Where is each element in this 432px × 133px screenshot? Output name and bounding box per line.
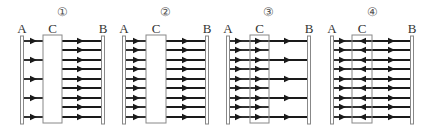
- arrow-right-icon: [77, 38, 84, 44]
- plate-a: [123, 36, 126, 124]
- label-c: C: [255, 22, 264, 35]
- label-a: A: [17, 22, 26, 35]
- plate-a: [331, 36, 334, 124]
- arrow-right-icon: [235, 95, 242, 101]
- panel-number: ②: [160, 6, 171, 18]
- arrow-right-icon: [235, 104, 242, 110]
- arrow-right-icon: [235, 57, 242, 63]
- arrow-right-icon: [30, 38, 37, 44]
- arrow-right-icon: [235, 66, 242, 72]
- arrow-right-icon: [133, 114, 140, 120]
- label-a: A: [119, 22, 128, 35]
- arrow-right-icon: [133, 57, 140, 63]
- arrow-right-icon: [235, 47, 242, 53]
- arrow-right-icon: [77, 76, 84, 82]
- arrow-right-icon: [388, 66, 395, 72]
- arrow-right-icon: [339, 38, 346, 44]
- arrow-right-icon: [133, 104, 140, 110]
- arrow-right-icon: [235, 38, 242, 44]
- arrow-right-icon: [339, 104, 346, 110]
- arrow-right-icon: [182, 95, 189, 101]
- arrow-right-icon: [284, 114, 291, 120]
- slab-c: [146, 35, 166, 123]
- arrow-right-icon: [182, 76, 189, 82]
- arrow-right-icon: [235, 85, 242, 91]
- arrow-right-icon: [77, 66, 84, 72]
- arrow-right-icon: [30, 95, 37, 101]
- arrow-right-icon: [77, 85, 84, 91]
- arrow-left-icon: [359, 104, 366, 110]
- label-b: B: [99, 22, 108, 35]
- arrow-right-icon: [182, 47, 189, 53]
- arrow-right-icon: [133, 95, 140, 101]
- plate-b: [411, 36, 414, 124]
- arrow-right-icon: [255, 66, 262, 72]
- arrow-right-icon: [182, 114, 189, 120]
- arrow-right-icon: [77, 57, 84, 63]
- plate-b: [102, 36, 105, 124]
- arrow-right-icon: [255, 47, 262, 53]
- arrow-right-icon: [388, 47, 395, 53]
- arrow-right-icon: [388, 114, 395, 120]
- arrow-right-icon: [77, 47, 84, 53]
- field-lines-figure: [0, 0, 432, 133]
- arrow-right-icon: [30, 114, 37, 120]
- arrow-right-icon: [235, 76, 242, 82]
- plate-b: [308, 36, 311, 124]
- arrow-right-icon: [133, 47, 140, 53]
- arrow-left-icon: [359, 95, 366, 101]
- arrow-right-icon: [339, 76, 346, 82]
- arrow-left-icon: [359, 76, 366, 82]
- arrow-right-icon: [255, 76, 262, 82]
- arrow-right-icon: [388, 38, 395, 44]
- arrow-right-icon: [339, 66, 346, 72]
- arrow-right-icon: [284, 38, 291, 44]
- arrow-right-icon: [255, 38, 262, 44]
- arrow-right-icon: [255, 104, 262, 110]
- arrow-right-icon: [339, 85, 346, 91]
- arrow-right-icon: [182, 38, 189, 44]
- label-c: C: [358, 22, 367, 35]
- arrow-right-icon: [284, 57, 291, 63]
- plate-b: [206, 36, 209, 124]
- arrow-right-icon: [182, 66, 189, 72]
- arrow-right-icon: [388, 57, 395, 63]
- arrow-right-icon: [339, 114, 346, 120]
- arrow-right-icon: [388, 76, 395, 82]
- arrow-left-icon: [359, 57, 366, 63]
- arrow-right-icon: [255, 114, 262, 120]
- panel-number: ①: [57, 6, 68, 18]
- plate-a: [21, 36, 24, 124]
- label-b: B: [408, 22, 417, 35]
- panel-number: ③: [263, 6, 274, 18]
- diagram-canvas: [0, 0, 432, 133]
- slab-c: [43, 35, 62, 123]
- arrow-left-icon: [359, 114, 366, 120]
- arrow-right-icon: [133, 85, 140, 91]
- arrow-left-icon: [359, 47, 366, 53]
- label-c: C: [152, 22, 161, 35]
- arrow-right-icon: [339, 95, 346, 101]
- arrow-left-icon: [359, 66, 366, 72]
- arrow-right-icon: [77, 95, 84, 101]
- label-c: C: [48, 22, 57, 35]
- arrow-right-icon: [77, 104, 84, 110]
- panel-number: ④: [367, 6, 378, 18]
- arrow-right-icon: [255, 95, 262, 101]
- arrow-left-icon: [359, 85, 366, 91]
- arrow-right-icon: [30, 76, 37, 82]
- arrow-right-icon: [133, 76, 140, 82]
- label-a: A: [327, 22, 336, 35]
- arrow-right-icon: [133, 38, 140, 44]
- arrow-right-icon: [339, 47, 346, 53]
- arrow-right-icon: [182, 57, 189, 63]
- arrow-right-icon: [182, 85, 189, 91]
- label-b: B: [305, 22, 314, 35]
- arrow-right-icon: [235, 114, 242, 120]
- arrow-right-icon: [133, 66, 140, 72]
- label-b: B: [203, 22, 212, 35]
- label-a: A: [223, 22, 232, 35]
- arrow-right-icon: [255, 85, 262, 91]
- arrow-right-icon: [284, 95, 291, 101]
- arrow-right-icon: [77, 114, 84, 120]
